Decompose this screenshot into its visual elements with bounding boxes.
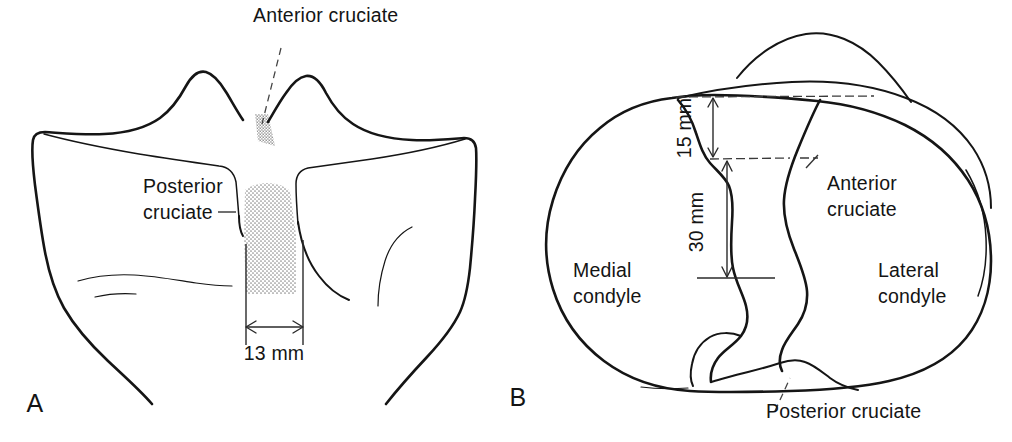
label-anterior-cruciate-a: Anterior cruciate — [253, 4, 398, 26]
label-posterior-cruciate-a-line2: cruciate — [143, 201, 213, 223]
label-anterior-cruciate-b-line1: Anterior — [827, 172, 897, 194]
label-medial-condyle-line2: condyle — [573, 285, 642, 307]
label-posterior-cruciate-b: Posterior cruciate — [766, 400, 921, 422]
figure-canvas: Anterior cruciate Posterior cruciate 13 … — [0, 0, 1012, 442]
label-lateral-condyle-line1: Lateral — [878, 259, 939, 281]
posterior-cruciate-stipple-a — [244, 183, 296, 294]
label-posterior-cruciate-a-line1: Posterior — [143, 175, 223, 197]
dim-label-13mm: 13 mm — [244, 342, 305, 364]
label-lateral-condyle-line2: condyle — [878, 285, 947, 307]
dim-label-30mm: 30 mm — [685, 192, 707, 253]
diagram-svg: Anterior cruciate Posterior cruciate 13 … — [0, 0, 1012, 442]
panel-label-b: B — [510, 383, 527, 411]
panel-label-a: A — [27, 389, 44, 417]
label-medial-condyle-line1: Medial — [573, 259, 632, 281]
dim-label-15mm: 15 mm — [673, 98, 695, 159]
label-anterior-cruciate-b-line2: cruciate — [827, 198, 897, 220]
